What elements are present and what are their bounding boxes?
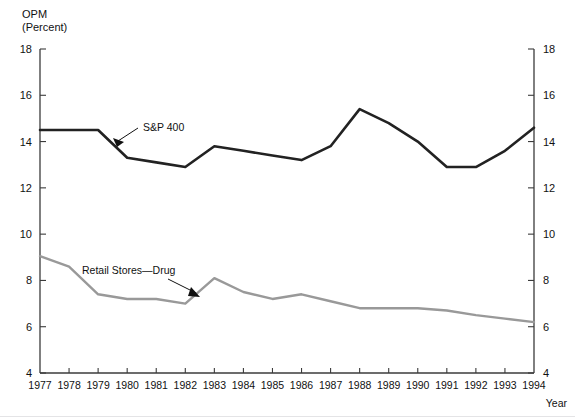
x-tick-label: 1983 [203, 379, 227, 391]
bottom-divider [0, 416, 575, 417]
x-tick-label: 1985 [261, 379, 285, 391]
y-tick-label-left: 14 [20, 136, 32, 148]
x-tick-label: 1989 [377, 379, 401, 391]
y-tick-label-right: 12 [543, 182, 555, 194]
x-tick-label: 1986 [290, 379, 314, 391]
sp400-leader-line [118, 128, 138, 141]
x-tick-label: 1990 [406, 379, 430, 391]
y-tick-label-left: 16 [20, 89, 32, 101]
series-line-sp400 [40, 109, 534, 167]
y-tick-label-right: 6 [543, 321, 549, 333]
x-tick-label: 1992 [464, 379, 488, 391]
x-tick-label: 1993 [493, 379, 517, 391]
sp400-series-label: S&P 400 [143, 121, 184, 133]
x-tick-label: 1977 [28, 379, 52, 391]
plot-area: 1818161614141212101088664419771978197919… [0, 0, 575, 420]
y-axis-title: OPM (Percent) [22, 8, 67, 34]
y-tick-label-left: 10 [20, 228, 32, 240]
y-tick-label-right: 10 [543, 228, 555, 240]
x-tick-label: 1991 [435, 379, 459, 391]
y-tick-label-right: 8 [543, 274, 549, 286]
x-axis-title: Year [546, 397, 567, 409]
y-tick-label-left: 18 [20, 43, 32, 55]
x-tick-label: 1978 [57, 379, 81, 391]
y-tick-label-left: 8 [26, 274, 32, 286]
y-tick-label-right: 18 [543, 43, 555, 55]
x-tick-label: 1988 [348, 379, 372, 391]
y-axis-title-line1: OPM [22, 8, 47, 20]
y-tick-label-left: 6 [26, 321, 32, 333]
x-tick-label: 1979 [86, 379, 110, 391]
chart-figure: 1977-1994 OPM (Percent) Year 18181616141… [0, 0, 575, 420]
y-tick-label-left: 12 [20, 182, 32, 194]
y-tick-label-left: 4 [26, 367, 32, 379]
y-axis-title-line2: (Percent) [22, 21, 67, 34]
x-tick-label: 1981 [145, 379, 169, 391]
retail-series-label: Retail Stores—Drug [82, 264, 176, 276]
y-tick-label-right: 4 [543, 367, 549, 379]
y-tick-label-right: 14 [543, 136, 555, 148]
x-tick-label: 1984 [232, 379, 256, 391]
x-tick-label: 1980 [115, 379, 139, 391]
x-tick-label: 1994 [522, 379, 546, 391]
x-tick-label: 1987 [319, 379, 343, 391]
x-tick-label: 1982 [174, 379, 198, 391]
y-tick-label-right: 16 [543, 89, 555, 101]
